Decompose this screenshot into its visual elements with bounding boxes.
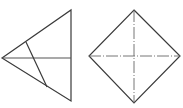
- triangle-figure: [2, 10, 71, 101]
- diamond-outline: [89, 10, 180, 103]
- triangle-outline: [2, 10, 71, 101]
- diamond-figure: [89, 10, 180, 103]
- geometry-diagram: [0, 0, 183, 108]
- triangle-inner-segment: [26, 42, 47, 87]
